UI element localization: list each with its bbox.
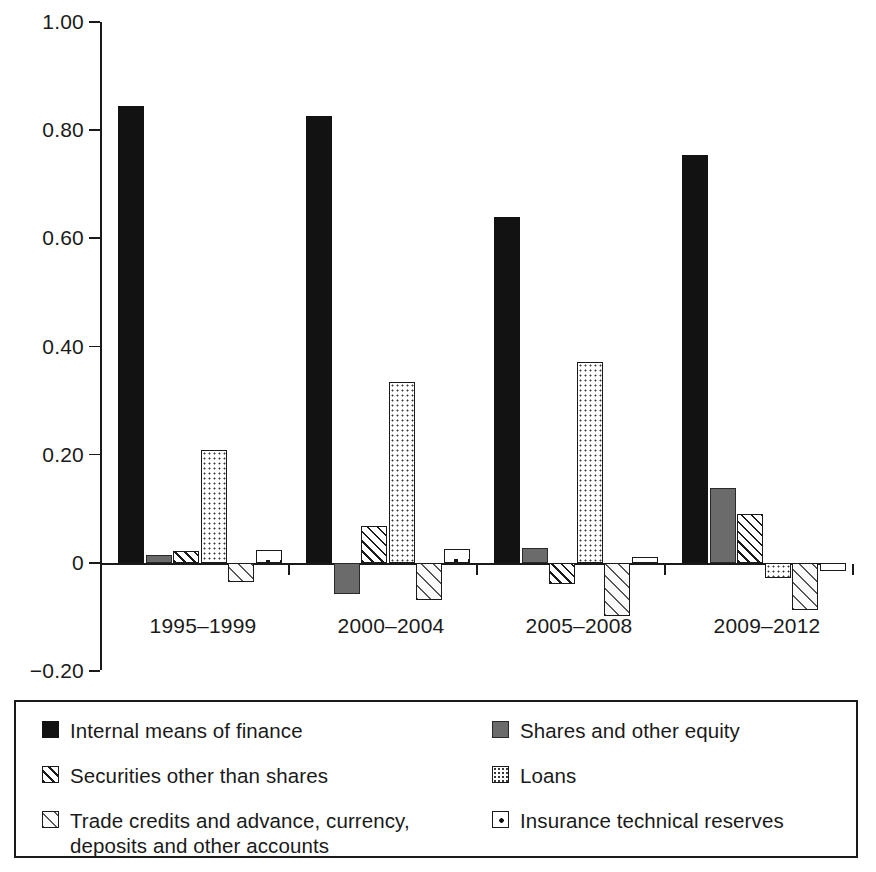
legend-item[interactable]: Shares and other equity [492, 718, 852, 743]
x-category-label: 2005–2008 [476, 615, 682, 636]
y-tick-label: 1.00 [10, 11, 84, 32]
bar-loans-3 [765, 563, 791, 578]
legend-swatch-icon [492, 721, 509, 738]
y-axis-line [100, 22, 102, 670]
bar-insurance-technical-reserves-3 [820, 563, 846, 571]
bar-trade-credits-and-advance-currency-depos-0 [228, 563, 254, 582]
bar-shares-and-other-equity-3 [710, 488, 736, 563]
y-tick-label: 0 [10, 552, 84, 573]
legend-item-label: Internal means of finance [70, 718, 303, 743]
bar-insurance-technical-reserves-0 [256, 550, 282, 563]
legend-column-right: Shares and other equityLoansInsurance te… [492, 718, 852, 853]
y-tick-mark [89, 237, 100, 239]
x-category-label: 1995–1999 [100, 615, 306, 636]
y-tick-label: 0.60 [10, 227, 84, 248]
plot-area: 1.000.800.600.400.200−0.20 1995–19992000… [0, 0, 876, 690]
bar-insurance-technical-reserves-1 [444, 549, 470, 563]
bar-shares-and-other-equity-2 [522, 548, 548, 563]
legend-item[interactable]: Loans [492, 763, 852, 788]
x-tick-mark [476, 564, 478, 575]
legend-swatch-icon [42, 766, 59, 783]
bar-trade-credits-and-advance-currency-depos-3 [792, 563, 818, 610]
bar-loans-2 [577, 362, 603, 563]
legend-swatch-icon [492, 811, 509, 828]
y-tick-mark [89, 21, 100, 23]
y-tick-label: 0.80 [10, 119, 84, 140]
bar-shares-and-other-equity-0 [146, 555, 172, 563]
bar-internal-means-of-finance-0 [118, 106, 144, 563]
x-tick-mark [288, 564, 290, 575]
legend-item[interactable]: Insurance technical reserves [492, 808, 852, 833]
legend-item-label: Insurance technical reserves [520, 808, 784, 833]
y-tick-mark [89, 670, 100, 672]
legend-swatch-icon [492, 766, 509, 783]
bar-securities-other-than-shares-1 [361, 526, 387, 563]
legend-item-label: Securities other than shares [70, 763, 328, 788]
bar-securities-other-than-shares-0 [173, 551, 199, 563]
y-tick-label: 0.40 [10, 336, 84, 357]
legend-column-left: Internal means of financeSecurities othe… [42, 718, 462, 872]
y-tick-label: −0.20 [10, 660, 84, 681]
y-tick-label: 0.20 [10, 444, 84, 465]
bar-securities-other-than-shares-2 [549, 563, 575, 584]
legend-box: Internal means of financeSecurities othe… [14, 700, 858, 858]
legend-item-label: Loans [520, 763, 576, 788]
y-tick-mark [89, 562, 100, 564]
bar-trade-credits-and-advance-currency-depos-2 [604, 563, 630, 616]
legend-item-label: Shares and other equity [520, 718, 740, 743]
chart-figure: 1.000.800.600.400.200−0.20 1995–19992000… [0, 0, 876, 872]
legend-item[interactable]: Trade credits and advance, currency, dep… [42, 808, 462, 858]
bar-loans-1 [389, 382, 415, 563]
y-tick-mark [89, 129, 100, 131]
x-category-label: 2009–2012 [664, 615, 870, 636]
x-tick-mark [852, 564, 854, 575]
bar-loans-0 [201, 450, 227, 563]
bar-insurance-technical-reserves-2 [632, 557, 658, 563]
bar-shares-and-other-equity-1 [334, 563, 360, 594]
bar-internal-means-of-finance-2 [494, 217, 520, 563]
zero-baseline [100, 563, 845, 565]
y-tick-mark [89, 454, 100, 456]
x-tick-mark [664, 564, 666, 575]
legend-item-label: Trade credits and advance, currency, dep… [70, 808, 410, 858]
x-category-label: 2000–2004 [288, 615, 494, 636]
legend-swatch-icon [42, 721, 59, 738]
bar-internal-means-of-finance-3 [682, 155, 708, 563]
y-tick-mark [89, 346, 100, 348]
legend-swatch-icon [42, 811, 59, 828]
legend-item[interactable]: Internal means of finance [42, 718, 462, 743]
bar-trade-credits-and-advance-currency-depos-1 [416, 563, 442, 600]
bar-internal-means-of-finance-1 [306, 116, 332, 563]
legend-item[interactable]: Securities other than shares [42, 763, 462, 788]
bar-securities-other-than-shares-3 [737, 514, 763, 563]
